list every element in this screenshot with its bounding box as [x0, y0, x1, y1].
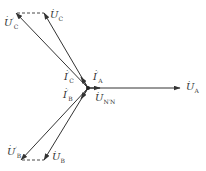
label-u-c: ·UC	[50, 10, 63, 22]
label-u-b: ·UB	[52, 152, 65, 164]
label-u-b-prime: ·U′B	[7, 146, 21, 159]
label-i-b-prime: ·I′B	[63, 89, 73, 102]
label-i-a-prime: ·I′A	[93, 71, 103, 84]
label-u-nn: ·UN′N	[95, 93, 115, 105]
phasor-diagram	[0, 0, 206, 171]
vector-u-c-prime	[16, 13, 88, 88]
label-u-a: ·UA	[186, 82, 199, 94]
label-i-c-prime: ·I′C	[64, 71, 74, 84]
origin-point	[86, 86, 90, 90]
label-u-c-prime: ·U′C	[4, 17, 18, 30]
